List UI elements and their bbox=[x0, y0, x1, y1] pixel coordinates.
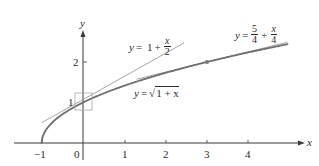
tangency-point-3-2 bbox=[205, 60, 209, 64]
x-tick-label-0: 0 bbox=[74, 149, 80, 160]
eq3-lhs: y bbox=[235, 29, 240, 41]
eq3-denominator-2: 4 bbox=[270, 35, 277, 45]
x-tick-label-1: 1 bbox=[122, 149, 128, 160]
tangent-at-3-equation: y = 5 4 + x 4 bbox=[234, 24, 279, 45]
y-tick-label-2: 2 bbox=[73, 57, 79, 68]
eq3-fraction-1: 5 4 bbox=[250, 24, 259, 45]
eq1-denominator: 2 bbox=[164, 47, 171, 57]
eq3-fraction-2: x 4 bbox=[269, 24, 278, 45]
x-tick-label-3: 3 bbox=[204, 149, 210, 160]
x-axis-arrow-icon bbox=[298, 141, 305, 146]
eq1-lhs: y bbox=[129, 41, 134, 53]
eq1-equals: = bbox=[136, 41, 142, 53]
y-axis-arrow-icon bbox=[81, 30, 86, 37]
x-axis bbox=[14, 140, 305, 146]
eq3-denominator-1: 4 bbox=[251, 35, 258, 45]
eq2-lhs: y bbox=[134, 87, 139, 99]
eq1-fraction: x 2 bbox=[163, 36, 172, 57]
x-axis-label: x bbox=[307, 137, 312, 148]
eq1-plus: + bbox=[155, 41, 161, 53]
curve-equation: y = √ 1 + x bbox=[133, 86, 180, 99]
eq3-plus: + bbox=[261, 29, 267, 41]
eq2-equals: = bbox=[141, 87, 147, 99]
x-tick-label-neg1: −1 bbox=[34, 149, 46, 160]
eq3-equals: = bbox=[242, 29, 248, 41]
x-tick-label-4: 4 bbox=[245, 149, 251, 160]
y-tick-label-1: 1 bbox=[68, 97, 74, 108]
eq2-radicand: 1 + x bbox=[155, 86, 179, 99]
eq1-const: 1 bbox=[147, 41, 153, 53]
y-axis bbox=[81, 30, 88, 160]
x-tick-label-2: 2 bbox=[163, 149, 169, 160]
tangent-at-0-equation: y = 1 + x 2 bbox=[128, 36, 173, 57]
y-axis-label: y bbox=[80, 18, 85, 29]
